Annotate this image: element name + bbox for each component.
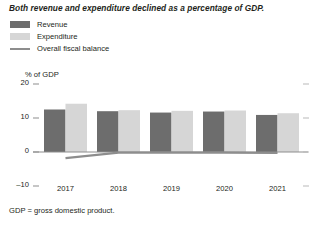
x-tick-label-2019: 2019 [152, 184, 192, 193]
chart-canvas [0, 0, 315, 229]
y-tick-label--10: –10 [5, 180, 29, 189]
fiscal-balance-line-group [66, 153, 278, 158]
bar-expenditure-2017 [66, 104, 88, 152]
bar-revenue-2020 [203, 112, 225, 152]
bar-expenditure-2018 [119, 110, 141, 152]
bar-revenue-2019 [150, 113, 172, 152]
y-tick-label-20: 20 [5, 78, 29, 87]
fiscal-balance-line [66, 153, 278, 158]
x-tick-label-2017: 2017 [46, 184, 86, 193]
bar-revenue-2021 [256, 115, 278, 152]
y-tick-label-0: 0 [5, 146, 29, 155]
bar-revenue-2018 [97, 111, 119, 152]
bar-revenue-2017 [44, 110, 66, 153]
bar-expenditure-2019 [172, 111, 194, 152]
y-tick-label-10: 10 [5, 112, 29, 121]
chart-footnote: GDP = gross domestic product. [9, 206, 115, 215]
bar-expenditure-2021 [278, 113, 300, 152]
x-tick-label-2018: 2018 [99, 184, 139, 193]
bar-expenditure-2020 [225, 111, 247, 152]
x-tick-label-2020: 2020 [205, 184, 245, 193]
bars-group [44, 104, 299, 152]
chart-figure: Both revenue and expenditure declined as… [0, 0, 315, 229]
x-tick-label-2021: 2021 [258, 184, 298, 193]
plot-area: 20100–10 20172018201920202021 [0, 0, 315, 229]
